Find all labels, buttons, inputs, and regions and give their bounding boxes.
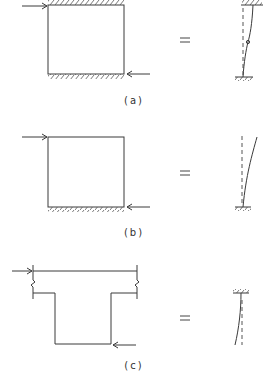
panel-b-wall — [48, 137, 124, 212]
break-mark-right-icon — [135, 280, 139, 287]
column-base-support-hatch-icon — [235, 77, 253, 81]
force-arrow-bottom-left — [127, 71, 150, 77]
force-arrow-top-right — [22, 3, 47, 9]
equals-sign-c — [180, 316, 190, 320]
figure-canvas: (a) (b) — [0, 0, 264, 382]
panel-label-a: (a) — [124, 95, 144, 106]
t-section — [31, 265, 139, 344]
equals-sign-b — [180, 171, 190, 175]
force-arrow-bottom-left — [113, 342, 136, 348]
column-diagram-b — [235, 136, 257, 211]
bottom-fixed-support-hatch-icon — [48, 74, 124, 79]
column-base-support-hatch-icon — [235, 207, 251, 211]
force-arrow-top-right — [12, 268, 32, 274]
break-mark-left-icon — [31, 280, 35, 287]
top-fixed-support-hatch-icon — [48, 0, 124, 5]
panel-label-c: (c) — [124, 360, 143, 371]
force-arrow-top-right — [22, 134, 47, 140]
panel-a-wall — [48, 0, 124, 79]
column-top-support-hatch-icon — [233, 289, 249, 293]
panel-b: (b) — [22, 134, 257, 238]
panel-a: (a) — [22, 0, 263, 106]
equals-sign-a — [180, 38, 190, 42]
column-diagram-a — [235, 0, 263, 81]
bottom-fixed-support-hatch-icon — [48, 207, 124, 212]
force-arrow-bottom-left — [127, 204, 150, 210]
panel-c: (c) — [12, 265, 249, 371]
column-top-support-hatch-icon — [242, 0, 262, 5]
panel-label-b: (b) — [124, 227, 144, 238]
column-diagram-c — [233, 289, 249, 345]
